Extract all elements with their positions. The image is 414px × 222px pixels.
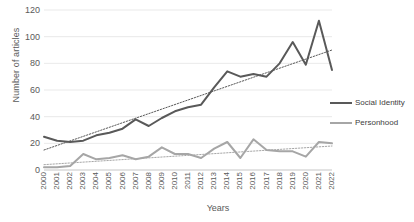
legend-label: Social Identity: [355, 98, 405, 107]
x-tick-label: 2007: [132, 172, 140, 190]
x-tick-label: 2004: [92, 172, 100, 190]
chart-plot-svg: [44, 10, 332, 170]
x-tick-label: 2011: [184, 172, 192, 189]
legend-label: Personhood: [355, 118, 398, 127]
x-tick-label: 2006: [119, 172, 127, 190]
y-tick-label: 60: [6, 86, 40, 95]
y-tick-label: 100: [6, 32, 40, 41]
x-axis-title: Years: [0, 203, 414, 213]
x-tick-label: 2018: [276, 172, 284, 190]
x-tick-label: 2008: [145, 172, 153, 190]
x-tick-label: 2022: [328, 172, 336, 190]
x-tick-label: 2010: [171, 172, 179, 190]
x-tick-label: 2020: [302, 172, 310, 190]
x-tick-label: 2014: [223, 172, 231, 190]
x-tick-label: 2001: [53, 172, 61, 190]
x-tick-label: 2005: [105, 172, 113, 190]
y-tick-label: 80: [6, 59, 40, 68]
chart-container: Number of articles Years 020406080100120…: [0, 0, 414, 222]
x-tick-label: 2013: [210, 172, 218, 190]
x-tick-label: 2017: [263, 172, 271, 190]
x-tick-label: 2000: [40, 172, 48, 190]
legend-swatch-line-icon: [330, 102, 352, 104]
y-tick-label: 40: [6, 112, 40, 121]
x-tick-label: 2015: [236, 172, 244, 190]
x-tick-label: 2002: [66, 172, 74, 190]
chart-legend: Social IdentityPersonhood: [330, 98, 414, 138]
trendline-series-0: [44, 50, 332, 150]
legend-item[interactable]: Social Identity: [330, 98, 414, 107]
x-tick-label: 2019: [289, 172, 297, 190]
x-tick-label: 2012: [197, 172, 205, 190]
y-tick-label: 0: [6, 166, 40, 175]
x-tick-label: 2016: [249, 172, 257, 190]
x-tick-label: 2021: [315, 172, 323, 190]
y-tick-label: 120: [6, 6, 40, 15]
x-tick-label: 2009: [158, 172, 166, 190]
x-axis-tick-labels: 2000200120022003200420052006200720082009…: [44, 172, 332, 202]
legend-swatch-line-icon: [330, 122, 352, 124]
legend-item[interactable]: Personhood: [330, 118, 414, 127]
data-line-series-0: [44, 21, 332, 142]
plot-area: [44, 10, 332, 170]
y-axis-tick-labels: 020406080100120: [0, 0, 40, 222]
y-tick-label: 20: [6, 139, 40, 148]
x-tick-label: 2003: [79, 172, 87, 190]
